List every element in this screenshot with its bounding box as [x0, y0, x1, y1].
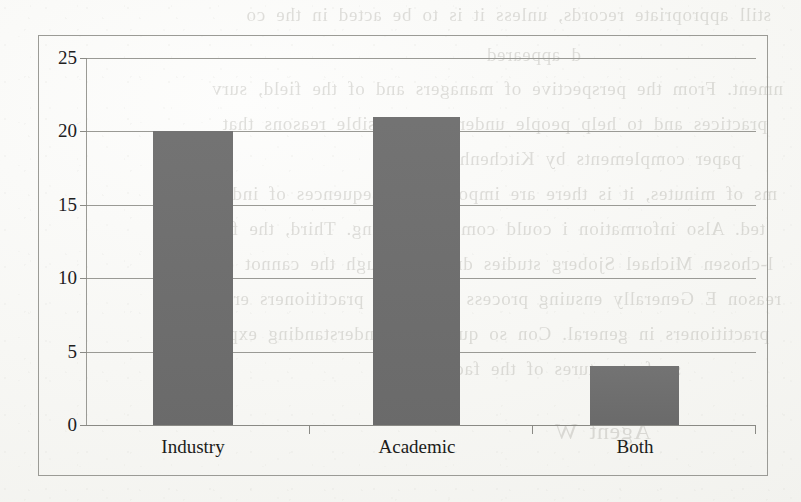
bar-both — [590, 366, 679, 425]
bar-academic — [373, 117, 460, 425]
y-tick-10 — [80, 278, 87, 279]
ghost-text-line: still appropriate records, unless it is … — [246, 4, 771, 26]
category-label-industry: Industry — [161, 436, 224, 458]
category-label-academic: Academic — [378, 436, 455, 458]
y-tick-20 — [80, 131, 87, 132]
y-tick-label-25: 25 — [58, 47, 77, 69]
y-tick-label-10: 10 — [58, 267, 77, 289]
x-axis-baseline: 0 — [86, 425, 756, 426]
bar-chart: 25 20 15 10 5 0 — [38, 35, 768, 476]
y-tick-label-15: 15 — [58, 194, 77, 216]
x-axis-tick-1 — [309, 426, 310, 434]
gridline-25: 25 — [86, 58, 756, 59]
y-tick-label-0: 0 — [68, 414, 78, 436]
category-label-both: Both — [617, 436, 654, 458]
y-tick-label-20: 20 — [58, 120, 77, 142]
y-tick-5 — [80, 352, 87, 353]
y-tick-label-5: 5 — [68, 341, 78, 363]
plot-area: 25 20 15 10 5 0 — [86, 58, 756, 425]
y-tick-25 — [80, 58, 87, 59]
x-axis-tick-3 — [755, 426, 756, 434]
y-tick-15 — [80, 205, 87, 206]
bar-industry — [153, 131, 233, 425]
scanned-page-background: still appropriate records, unless it is … — [0, 0, 801, 502]
y-axis-line — [86, 58, 87, 425]
x-axis-tick-2 — [532, 426, 533, 434]
y-tick-0 — [80, 425, 87, 426]
